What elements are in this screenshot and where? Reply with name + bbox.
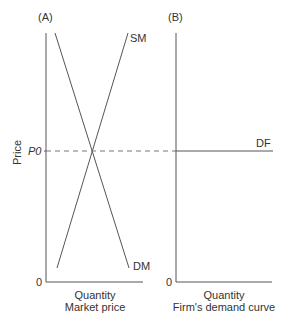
y-axis-label-price: Price: [12, 140, 23, 165]
diagram-canvas: [0, 0, 288, 326]
panel-b-label: (B): [168, 12, 183, 23]
demand-label-df: DF: [256, 138, 271, 149]
panel-a-origin-label: 0: [36, 277, 42, 288]
panel-b-x-axis-label: Quantity: [204, 290, 245, 301]
panel-b-caption: Firm's demand curve: [173, 302, 275, 313]
p0-label: P0: [28, 146, 41, 157]
panel-a-x-axis-label: Quantity: [75, 290, 116, 301]
supply-label-sm: SM: [130, 33, 147, 44]
panel-a-label: (A): [38, 12, 53, 23]
panel-a-caption: Market price: [65, 302, 126, 313]
demand-label-dm: DM: [133, 261, 150, 272]
panel-b-origin-label: 0: [166, 277, 172, 288]
